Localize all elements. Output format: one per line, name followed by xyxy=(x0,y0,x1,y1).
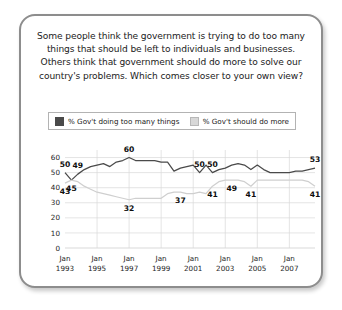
data-point-label: 41 xyxy=(246,190,257,199)
data-point-label: 45 xyxy=(66,184,77,193)
legend-swatch-dark-icon xyxy=(55,117,64,126)
survey-chart-card: Some people think the government is tryi… xyxy=(19,14,323,288)
x-tick-label: Jan1999 xyxy=(152,254,171,273)
chart-legend: % Gov't doing too many things % Gov't sh… xyxy=(48,112,296,130)
y-tick-label: 0 xyxy=(55,244,60,253)
data-point-label: 50 xyxy=(207,160,218,169)
line-chart-svg: 0102030405060 50496050505343453237414941… xyxy=(21,136,321,286)
x-tick-label: Jan2005 xyxy=(248,254,266,273)
legend-entry-too-many-things: % Gov't doing too many things xyxy=(55,117,179,126)
data-point-label: 41 xyxy=(207,190,218,199)
x-tick-label: Jan2001 xyxy=(184,254,202,273)
data-point-label: 53 xyxy=(310,155,321,164)
data-point-label: 60 xyxy=(124,145,135,154)
series-line-0 xyxy=(65,158,315,181)
data-point-label: 49 xyxy=(226,184,237,193)
chart-gridlines xyxy=(65,150,315,248)
series-line-1 xyxy=(65,180,315,200)
data-point-label: 49 xyxy=(73,161,84,170)
legend-swatch-light-icon xyxy=(190,117,199,126)
y-tick-label: 50 xyxy=(51,168,61,177)
x-tick-label: Jan1995 xyxy=(88,254,106,273)
x-tick-label: Jan2007 xyxy=(280,254,298,273)
data-point-label: 50 xyxy=(194,160,205,169)
x-tick-label: Jan1993 xyxy=(56,254,74,273)
x-tick-label: Jan1997 xyxy=(120,254,138,273)
question-text: Some people think the government is tryi… xyxy=(34,30,308,83)
data-point-label: 32 xyxy=(124,204,135,213)
chart-series-lines xyxy=(65,158,315,200)
chart-x-tick-labels: Jan1993Jan1995Jan1997Jan1999Jan2001Jan20… xyxy=(56,254,299,273)
y-tick-label: 30 xyxy=(51,198,61,207)
chart-plot-area: 0102030405060 50496050505343453237414941… xyxy=(21,136,321,286)
legend-label-should-do-more: % Gov't should do more xyxy=(203,117,289,126)
legend-label-too-many-things: % Gov't doing too many things xyxy=(68,117,179,126)
x-tick-label: Jan2003 xyxy=(216,254,234,273)
data-point-label: 41 xyxy=(310,190,321,199)
legend-entry-should-do-more: % Gov't should do more xyxy=(190,117,289,126)
y-tick-label: 10 xyxy=(51,229,61,238)
data-point-label: 37 xyxy=(175,196,186,205)
data-point-label: 50 xyxy=(60,160,71,169)
y-tick-label: 20 xyxy=(51,213,61,222)
